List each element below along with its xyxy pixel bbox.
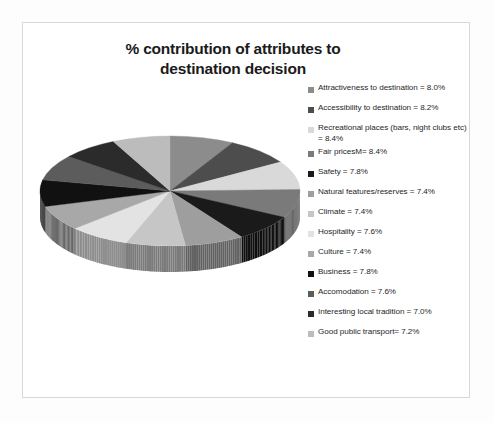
legend-item: Good public transport= 7.2% — [308, 327, 473, 338]
legend-item: Attractiveness to destination = 8.0% — [308, 83, 473, 94]
pie-svg — [25, 133, 315, 293]
plot-area: Attractiveness to destination = 8.0%Acce… — [23, 23, 471, 399]
legend-item: Fair pricesM= 8.4% — [308, 147, 473, 158]
legend-swatch-icon — [308, 291, 314, 297]
legend-item-label: Safety = 7.8% — [318, 167, 368, 178]
legend-item-label: Climate = 7.4% — [318, 207, 372, 218]
legend-item-label: Hospitality = 7.6% — [318, 227, 382, 238]
legend-swatch-icon — [308, 331, 314, 337]
legend-swatch-icon — [308, 87, 314, 93]
legend-item: Business = 7.8% — [308, 267, 473, 278]
legend-swatch-icon — [308, 191, 314, 197]
legend-swatch-icon — [308, 127, 314, 133]
legend-swatch-icon — [308, 107, 314, 113]
legend-item: Accessibility to destination = 8.2% — [308, 103, 473, 114]
legend-item-label: Culture = 7.4% — [318, 247, 371, 258]
legend-item-label: Accessibility to destination = 8.2% — [318, 103, 438, 114]
page-canvas: % contribution of attributes to destinat… — [0, 0, 494, 423]
pie-chart-3d — [25, 133, 315, 293]
legend-item-label: Fair pricesM= 8.4% — [318, 147, 387, 158]
legend-item: Interesting local tradition = 7.0% — [308, 307, 473, 318]
legend-item-label: Good public transport= 7.2% — [318, 327, 419, 338]
legend-item: Climate = 7.4% — [308, 207, 473, 218]
pie-top-slices — [40, 136, 300, 246]
legend-item: Culture = 7.4% — [308, 247, 473, 258]
legend-swatch-icon — [308, 271, 314, 277]
legend-item-label: Natural features/reserves = 7.4% — [318, 187, 435, 198]
legend-swatch-icon — [308, 311, 314, 317]
legend-item-label: Interesting local tradition = 7.0% — [318, 307, 432, 318]
chart-legend: Attractiveness to destination = 8.0%Acce… — [308, 83, 473, 347]
legend-item: Recreational places (bars, night clubs e… — [308, 123, 473, 144]
legend-swatch-icon — [308, 171, 314, 177]
legend-item-label: Accomodation = 7.6% — [318, 287, 396, 298]
legend-swatch-icon — [308, 231, 314, 237]
legend-item-label: Attractiveness to destination = 8.0% — [318, 83, 445, 94]
legend-swatch-icon — [308, 251, 314, 257]
legend-item-label: Business = 7.8% — [318, 267, 378, 278]
legend-item: Safety = 7.8% — [308, 167, 473, 178]
chart-frame: % contribution of attributes to destinat… — [22, 22, 470, 398]
legend-swatch-icon — [308, 151, 314, 157]
legend-item-label: Recreational places (bars, night clubs e… — [318, 123, 473, 144]
legend-item: Hospitality = 7.6% — [308, 227, 473, 238]
legend-item: Accomodation = 7.6% — [308, 287, 473, 298]
legend-swatch-icon — [308, 211, 314, 217]
legend-item: Natural features/reserves = 7.4% — [308, 187, 473, 198]
